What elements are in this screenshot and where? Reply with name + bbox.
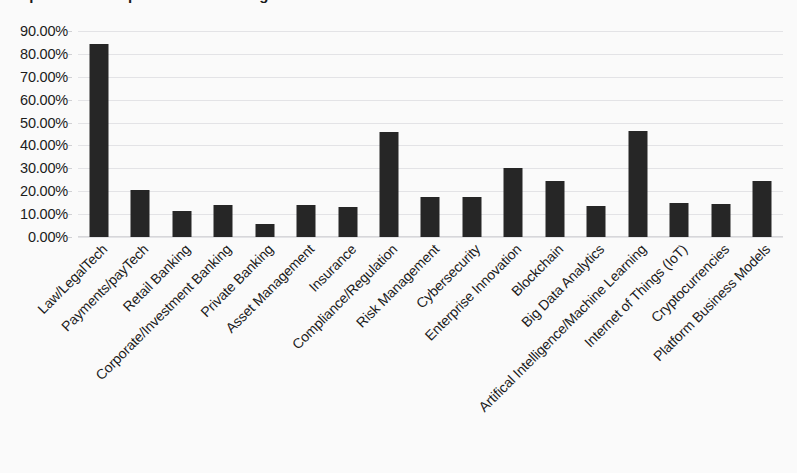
y-axis-tick-label: 20.00% — [20, 183, 68, 199]
y-axis-tick-label: 50.00% — [20, 115, 68, 131]
bar-slot — [617, 31, 658, 237]
bar-slot — [493, 31, 534, 237]
y-axis-tick-mark — [68, 214, 72, 215]
bar-slot — [451, 31, 492, 237]
bar-slot — [742, 31, 783, 237]
bar-chart: Importance of topics for the banking and… — [0, 0, 797, 473]
bar-slot — [410, 31, 451, 237]
bar-slot — [202, 31, 243, 237]
x-axis-tick-label: Private Banking — [197, 241, 276, 320]
bar[interactable] — [89, 44, 108, 237]
y-axis-tick-mark — [68, 191, 72, 192]
y-axis-tick-mark — [68, 31, 72, 32]
plot-area — [78, 31, 783, 237]
bar[interactable] — [421, 197, 440, 237]
y-axis-tick-mark — [68, 100, 72, 101]
bar[interactable] — [462, 197, 481, 237]
bar[interactable] — [214, 205, 233, 237]
y-axis-tick-mark — [68, 54, 72, 55]
y-axis-tick-label: 0.00% — [28, 229, 68, 245]
y-axis-tick-label: 30.00% — [20, 160, 68, 176]
y-axis-tick-label: 40.00% — [20, 137, 68, 153]
bar[interactable] — [297, 205, 316, 237]
bar-slot — [119, 31, 160, 237]
y-axis-tick-mark — [68, 168, 72, 169]
y-axis-tick-label: 10.00% — [20, 206, 68, 222]
bar-slot — [659, 31, 700, 237]
bar-slot — [368, 31, 409, 237]
y-axis-tick-mark — [68, 123, 72, 124]
bar-slot — [161, 31, 202, 237]
y-axis-tick-mark — [68, 237, 72, 238]
bar-slot — [576, 31, 617, 237]
y-axis-tick-label: 90.00% — [20, 23, 68, 39]
bar[interactable] — [338, 207, 357, 237]
bar-slot — [327, 31, 368, 237]
bars-layer — [78, 31, 783, 237]
bar[interactable] — [670, 203, 689, 237]
x-axis-tick-label: Law/LegalTech — [34, 241, 110, 317]
bar[interactable] — [255, 224, 274, 237]
bar[interactable] — [545, 181, 564, 237]
bar[interactable] — [131, 190, 150, 237]
y-axis-tick-mark — [68, 145, 72, 146]
bar-slot — [700, 31, 741, 237]
bar-slot — [244, 31, 285, 237]
bar[interactable] — [504, 168, 523, 237]
chart-title: Importance of topics for the banking and… — [12, 0, 411, 3]
bar[interactable] — [711, 204, 730, 237]
bar[interactable] — [628, 131, 647, 237]
y-axis-tick-label: 70.00% — [20, 69, 68, 85]
y-axis-tick-label: 80.00% — [20, 46, 68, 62]
bar-slot — [285, 31, 326, 237]
bar[interactable] — [172, 211, 191, 237]
y-axis-tick-mark — [68, 77, 72, 78]
y-axis: 90.00%80.00%70.00%60.00%50.00%40.00%30.0… — [0, 31, 72, 237]
bar[interactable] — [587, 206, 606, 237]
x-axis: Law/LegalTechPayments/payTechRetail Bank… — [78, 239, 783, 473]
bar[interactable] — [380, 132, 399, 237]
bar-slot — [534, 31, 575, 237]
bar-slot — [78, 31, 119, 237]
bar[interactable] — [753, 181, 772, 237]
y-axis-tick-label: 60.00% — [20, 92, 68, 108]
gridline — [78, 237, 783, 238]
